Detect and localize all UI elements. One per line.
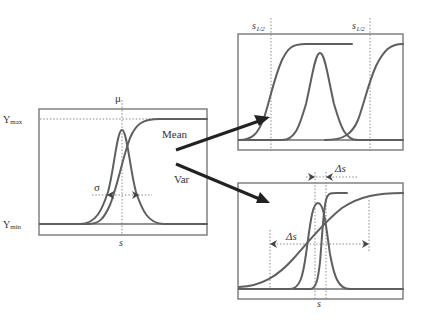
ymin-label: Υmin: [3, 219, 22, 231]
response-curves-diagram: μ Υmax Υmin σ s s1/2 s1/2: [0, 0, 422, 323]
s-axis-label-bottom: s: [317, 298, 321, 309]
s-half-label-right: s1/2: [352, 20, 365, 33]
mean-label: Mean: [162, 128, 188, 140]
top-right-panel: s1/2 s1/2: [238, 18, 403, 151]
wide-delta-arrowhead-left: [270, 240, 277, 248]
top-right-panel-frame: [238, 34, 403, 150]
sigmoid-shifted-right: [325, 44, 403, 140]
sigmoid-shifted-left: [239, 44, 352, 140]
narrow-delta-arrowhead-right: [326, 173, 333, 181]
narrow-delta-arrowhead-left: [308, 173, 315, 181]
sigma-label: σ: [94, 181, 100, 193]
wide-delta-s-label: Δs: [285, 230, 297, 242]
bottom-right-panel: Δs Δs s: [238, 162, 403, 309]
var-label: Var: [174, 173, 190, 185]
var-arrowhead-icon: [256, 192, 270, 203]
narrow-delta-s-label: Δs: [334, 162, 346, 174]
transition-arrows: Mean Var: [162, 115, 270, 203]
gaussian-curve-top: [239, 53, 403, 140]
s-half-label-left: s1/2: [252, 20, 265, 33]
left-panel: μ Υmax Υmin σ s: [3, 92, 207, 248]
s-axis-label: s: [119, 237, 123, 248]
mean-arrow: [176, 120, 262, 150]
mu-label: μ: [115, 92, 121, 104]
ymax-label: Υmax: [3, 114, 23, 126]
